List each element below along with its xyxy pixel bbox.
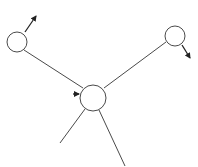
arrows-layer — [25, 16, 190, 94]
center-node — [80, 85, 106, 111]
left-node-arrow-icon — [25, 16, 36, 32]
diagram-canvas — [0, 0, 198, 167]
diagram-svg — [0, 0, 198, 167]
edge-center-to-bottom-left — [60, 109, 85, 143]
edge-center-to-bottom-right — [99, 110, 125, 166]
nodes-layer — [7, 26, 185, 111]
left-node — [7, 32, 27, 52]
edge-right-to-center — [104, 42, 166, 88]
right-node — [165, 26, 185, 46]
right-node-arrow-icon — [182, 45, 190, 58]
edge-left-to-center — [24, 50, 83, 88]
